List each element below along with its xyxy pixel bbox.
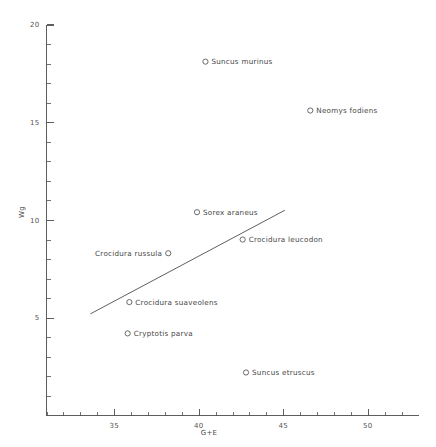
data-point[interactable]: Crocidura russula [95,249,171,258]
data-point[interactable]: Cryptotis parva [125,329,193,338]
data-point[interactable]: Suncus etruscus [243,368,314,377]
point-label: Sorex araneus [203,208,258,217]
scatter-chart: 5101520 35404550 Suncus murinusNeomys fo… [0,0,436,447]
point-label: Crocidura russula [95,249,162,258]
y-tick-label-20: 20 [30,21,40,29]
y-tick-label-10: 10 [30,217,40,225]
data-point[interactable]: Crocidura suaveolens [127,298,218,307]
x-tick-label-35: 35 [109,422,119,430]
y-axis-title: Wg [18,206,26,218]
y-tick-label-15: 15 [30,119,40,127]
plot-canvas: 5101520 35404550 Suncus murinusNeomys fo… [0,0,436,447]
data-point[interactable]: Sorex araneus [194,208,257,217]
x-tick-label-50: 50 [363,422,373,430]
point-label: Neomys fodiens [316,106,377,115]
data-point[interactable]: Neomys fodiens [308,106,378,115]
data-point[interactable]: Crocidura leucodon [240,235,323,244]
point-label: Cryptotis parva [134,329,193,338]
data-point[interactable]: Suncus murinus [203,57,273,66]
point-label: Suncus etruscus [252,368,315,377]
point-label: Crocidura leucodon [249,235,323,244]
y-tick-label-5: 5 [35,314,40,322]
x-tick-label-45: 45 [278,422,288,430]
point-label: Suncus murinus [211,57,272,66]
x-axis-title: G+E [201,429,218,437]
point-label: Crocidura suaveolens [135,298,217,307]
chart-background [0,0,436,447]
